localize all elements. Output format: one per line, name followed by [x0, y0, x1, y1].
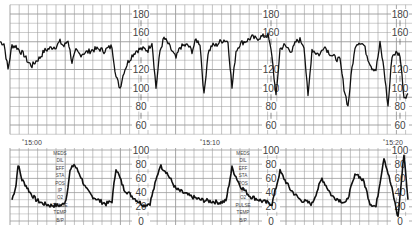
svg-text:40: 40 [135, 187, 147, 198]
svg-text:80: 80 [265, 159, 277, 170]
svg-text:PULSE: PULSE [235, 203, 250, 208]
svg-text:120: 120 [392, 64, 409, 75]
svg-text:B/P: B/P [56, 218, 63, 223]
svg-text:POS: POS [55, 181, 65, 186]
svg-text:60: 60 [135, 173, 147, 184]
svg-text:˚15:20: ˚15:20 [383, 139, 403, 146]
svg-text:100: 100 [133, 83, 150, 94]
svg-text:0: 0 [268, 216, 274, 227]
svg-text:60: 60 [265, 120, 277, 131]
svg-text:60: 60 [265, 173, 277, 184]
svg-text:120: 120 [133, 64, 150, 75]
svg-text:20: 20 [265, 201, 277, 212]
annotation-labels: MEDSDILEFFSTAPOSIPO2PULSETEMPB/PMEDSDILE… [52, 151, 250, 223]
svg-text:DIL: DIL [239, 158, 247, 163]
svg-text:˚15:00: ˚15:00 [22, 139, 42, 146]
svg-text:MEDS: MEDS [53, 151, 66, 156]
svg-text:60: 60 [394, 173, 406, 184]
svg-text:100: 100 [263, 145, 280, 156]
svg-text:0: 0 [138, 216, 144, 227]
svg-text:B/P: B/P [239, 218, 246, 223]
svg-text:180: 180 [263, 9, 280, 20]
svg-text:80: 80 [135, 159, 147, 170]
ua-grid [10, 148, 412, 225]
svg-text:TEMP: TEMP [237, 210, 250, 215]
svg-text:0: 0 [397, 216, 403, 227]
svg-text:DIL: DIL [56, 158, 64, 163]
svg-text:EFF: EFF [56, 166, 65, 171]
svg-text:120: 120 [263, 64, 280, 75]
svg-text:60: 60 [394, 120, 406, 131]
svg-text:80: 80 [135, 101, 147, 112]
fetal-monitor-strip: 1801601201008060180160120100806018016012… [0, 0, 412, 236]
time-labels: ˚15:00˚15:10˚15:20 [22, 139, 403, 146]
svg-text:100: 100 [133, 145, 150, 156]
svg-text:IP: IP [58, 188, 62, 193]
svg-text:STA: STA [239, 173, 249, 178]
svg-text:˚15:10: ˚15:10 [200, 139, 220, 146]
svg-text:100: 100 [392, 145, 409, 156]
svg-text:MEDS: MEDS [236, 151, 249, 156]
svg-text:O2: O2 [57, 195, 64, 200]
svg-text:EFF: EFF [239, 166, 248, 171]
svg-text:180: 180 [133, 9, 150, 20]
svg-text:100: 100 [392, 83, 409, 94]
svg-text:180: 180 [392, 9, 409, 20]
svg-text:80: 80 [394, 101, 406, 112]
svg-text:160: 160 [392, 27, 409, 38]
svg-text:160: 160 [133, 27, 150, 38]
svg-text:O2: O2 [240, 195, 247, 200]
svg-text:TEMP: TEMP [54, 210, 67, 215]
svg-text:STA: STA [56, 173, 66, 178]
svg-text:60: 60 [135, 120, 147, 131]
svg-text:80: 80 [265, 101, 277, 112]
